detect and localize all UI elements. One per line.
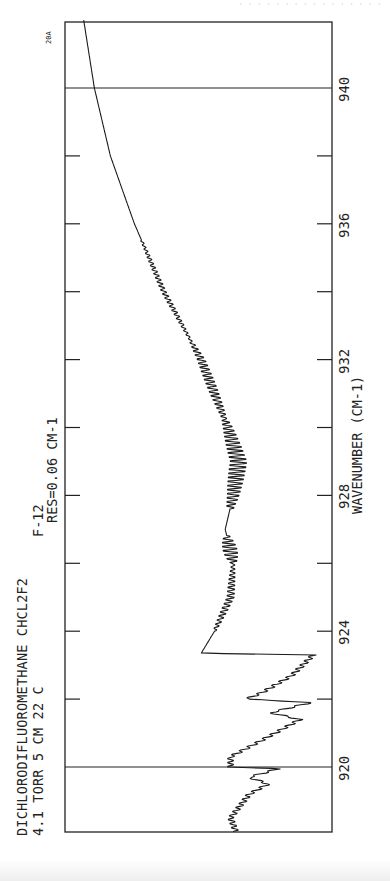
plate-id-label: 20A <box>45 31 53 44</box>
compound-title: DICHLORODIFLUOROMETHANE CHCL2F2 <box>14 578 30 836</box>
tick-label-924: 924 <box>336 620 352 645</box>
axis-ticks <box>65 156 332 699</box>
tick-label-920: 920 <box>336 756 352 781</box>
x-axis-label: WAVENUMBER (CM-1) <box>349 376 365 514</box>
page-edge <box>0 860 390 881</box>
tick-label-936: 936 <box>336 213 352 238</box>
tick-label-940: 940 <box>336 77 352 102</box>
spectrum-trace <box>84 20 316 831</box>
plot-frame <box>65 22 332 832</box>
calibration-lines <box>65 88 332 767</box>
sample-conditions: 4.1 TORR 5 CM 22 C <box>30 686 46 836</box>
resolution-label: RES=0.06 CM-1 <box>44 417 60 523</box>
tick-label-932: 932 <box>336 348 352 373</box>
